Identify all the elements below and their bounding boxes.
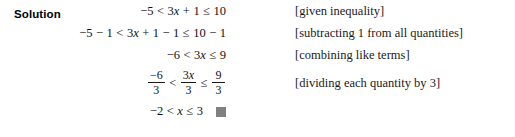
math-operator: < xyxy=(180,48,194,63)
math-expression-step-3: −6 < 3x ≤ 9 xyxy=(0,48,232,63)
math-token: −5 xyxy=(79,26,92,41)
fraction-three-x-thirds: 3x 3 xyxy=(181,69,196,96)
math-operator: + xyxy=(179,4,193,19)
fraction-numerator: −6 xyxy=(148,69,165,82)
fraction-denominator: 3 xyxy=(214,83,224,96)
math-token: 10 xyxy=(193,26,206,41)
math-token: 10 xyxy=(214,4,227,19)
math-token: −5 xyxy=(140,4,153,19)
math-expression-step-2: −5 − 1 < 3x + 1 − 1 ≤ 10 − 1 xyxy=(0,26,232,41)
math-operator: ≤ xyxy=(179,26,193,41)
fraction-denominator: 3 xyxy=(183,83,193,96)
solution-step-row: −5 < 3x + 1 ≤ 10 [given inequality] xyxy=(0,0,515,22)
solution-step-row: −6 3 < 3x 3 ≤ 9 3 [dividing each quantit… xyxy=(0,66,515,100)
step-annotation: [subtracting 1 from all quantities] xyxy=(232,26,515,41)
solution-block: Solution −5 < 3x + 1 ≤ 10 [given inequal… xyxy=(0,0,515,137)
math-operator: − xyxy=(206,26,220,41)
math-operator: < xyxy=(166,76,180,91)
math-operator: ≤ xyxy=(197,76,211,91)
math-operator: ≤ xyxy=(206,48,220,63)
math-variable: x xyxy=(189,68,194,82)
step-annotation: [given inequality] xyxy=(232,4,515,19)
math-token: −2 xyxy=(150,104,163,119)
math-operator: < xyxy=(163,104,177,119)
step-annotation: [dividing each quantity by 3] xyxy=(232,76,515,91)
math-expression-step-5: −2 < x ≤ 3 xyxy=(0,104,232,119)
math-operator: < xyxy=(113,26,127,41)
qed-square-icon xyxy=(216,107,226,117)
math-operator: < xyxy=(153,4,167,19)
math-token: 9 xyxy=(220,48,226,63)
solution-step-row: −2 < x ≤ 3 xyxy=(0,100,515,122)
math-token: 1 xyxy=(220,26,226,41)
step-annotation: [combining like terms] xyxy=(232,48,515,63)
math-expression-step-4: −6 3 < 3x 3 ≤ 9 3 xyxy=(0,69,232,96)
math-operator: − xyxy=(93,26,107,41)
fraction-numerator: 3x xyxy=(181,69,196,82)
math-expression-step-1: −5 < 3x + 1 ≤ 10 xyxy=(0,4,232,19)
solution-step-row: −5 − 1 < 3x + 1 − 1 ≤ 10 − 1 [subtractin… xyxy=(0,22,515,44)
solution-steps: −5 < 3x + 1 ≤ 10 [given inequality] −5 −… xyxy=(0,0,515,122)
math-token: −6 xyxy=(167,48,180,63)
fraction-denominator: 3 xyxy=(151,83,161,96)
math-operator: + xyxy=(139,26,153,41)
fraction-negative-six-thirds: −6 3 xyxy=(148,69,165,96)
fraction-numerator: 9 xyxy=(214,69,224,82)
math-token: 3 xyxy=(197,104,203,119)
math-operator: ≤ xyxy=(183,104,197,119)
math-operator: − xyxy=(159,26,173,41)
fraction-nine-thirds: 9 3 xyxy=(212,69,225,96)
math-operator: ≤ xyxy=(200,4,214,19)
solution-step-row: −6 < 3x ≤ 9 [combining like terms] xyxy=(0,44,515,66)
